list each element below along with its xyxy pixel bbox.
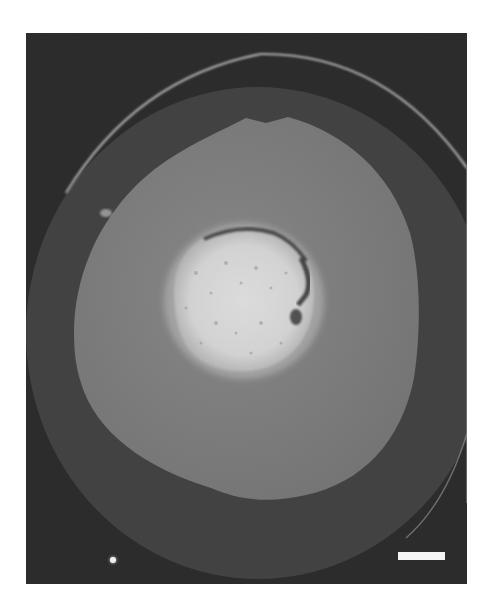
grain-overlay <box>26 33 467 584</box>
specimen-illustration <box>26 33 467 584</box>
caption-fragment <box>80 600 480 609</box>
micrograph-image <box>26 33 467 584</box>
bright-particle <box>110 557 116 563</box>
scale-bar <box>398 552 445 560</box>
